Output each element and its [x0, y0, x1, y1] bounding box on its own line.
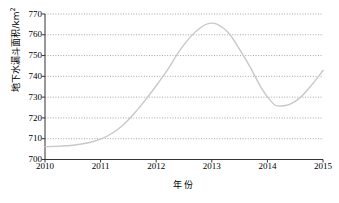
plot-area — [0, 0, 339, 203]
gridlines — [45, 14, 323, 139]
axis-ticks — [42, 14, 323, 163]
data-series-line — [45, 23, 323, 147]
groundwater-funnel-area-chart: 地下水漏斗面积/km2 770 760 750 740 730 720 710 … — [0, 0, 339, 203]
